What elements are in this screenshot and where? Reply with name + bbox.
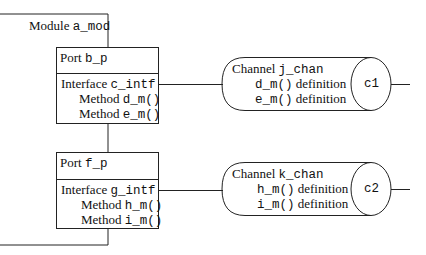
definition-method: d_m() [255, 78, 293, 92]
method-name: e_m() [123, 108, 161, 122]
definition-keyword: definition [298, 196, 349, 211]
module-name: a_mod [73, 20, 111, 34]
definition-keyword: definition [298, 181, 349, 196]
port-label: Port f_p [60, 155, 107, 172]
definition-keyword: definition [296, 76, 347, 91]
module-keyword: Module [29, 18, 69, 33]
definition-method: h_m() [257, 183, 295, 197]
method-keyword: Method [81, 212, 121, 227]
port-keyword: Port [60, 50, 82, 65]
port-name: f_p [85, 157, 108, 171]
method-label: Method i_m() [81, 212, 162, 229]
method-name: d_m() [123, 93, 161, 107]
port-label: Port b_p [60, 50, 107, 67]
interface-keyword: Interface [61, 182, 107, 197]
method-keyword: Method [81, 197, 121, 212]
method-name: h_m() [125, 199, 163, 213]
method-keyword: Method [79, 91, 119, 106]
port-name: b_p [85, 52, 108, 66]
channel-id: c1 [364, 77, 379, 92]
definition-method: e_m() [255, 93, 293, 107]
method-label: Method e_m() [79, 106, 160, 123]
module-boundary-bottom [0, 228, 108, 245]
channel-id: c2 [364, 182, 379, 197]
method-keyword: Method [79, 106, 119, 121]
port-keyword: Port [60, 155, 82, 170]
definition-keyword: definition [296, 91, 347, 106]
definition-method: i_m() [257, 198, 295, 212]
diagram-lines [0, 0, 426, 255]
module-label: Module a_mod [29, 18, 110, 35]
interface-keyword: Interface [61, 76, 107, 91]
method-name: i_m() [125, 214, 163, 228]
definition-label: e_m() definition [255, 91, 346, 108]
channel-keyword: Channel [232, 166, 275, 181]
channel-name: k_chan [279, 168, 324, 182]
definition-label: i_m() definition [257, 196, 348, 213]
interface-name: c_intf [110, 78, 155, 92]
channel-keyword: Channel [232, 61, 275, 76]
channel-name: j_chan [279, 63, 324, 77]
diagram: Module a_mod Port b_p Interface c_intf M… [0, 0, 426, 255]
interface-name: g_intf [110, 184, 155, 198]
